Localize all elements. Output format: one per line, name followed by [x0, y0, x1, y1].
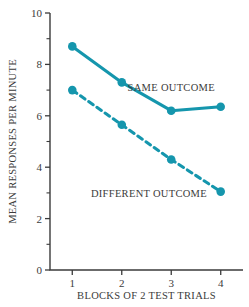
data-point-marker [118, 78, 127, 87]
data-point-marker [167, 155, 176, 164]
x-tick-label: 1 [70, 277, 76, 289]
y-axis-tick-labels: 0246810 [31, 7, 43, 276]
series-label: SAME OUTCOME [128, 82, 215, 93]
y-tick-label: 10 [31, 7, 43, 19]
data-point-marker [167, 106, 176, 115]
line-chart: 0246810 1234 SAME OUTCOMEDIFFERENT OUTCO… [0, 0, 249, 307]
y-tick-label: 2 [37, 213, 43, 225]
x-axis-tick-labels: 1234 [70, 277, 224, 289]
data-point-marker [68, 42, 77, 51]
y-tick-label: 0 [37, 264, 43, 276]
x-tick-label: 2 [119, 277, 125, 289]
y-axis-ticks [45, 13, 50, 270]
x-tick-label: 4 [218, 277, 224, 289]
series-line [72, 90, 220, 192]
y-tick-label: 6 [37, 110, 43, 122]
x-axis-title: BLOCKS OF 2 TEST TRIALS [77, 290, 216, 301]
data-series [68, 86, 225, 196]
data-point-marker [68, 86, 77, 95]
y-axis-title: MEAN RESPONSES PER MINUTE [7, 59, 18, 224]
y-tick-label: 8 [37, 58, 43, 70]
data-point-marker [216, 187, 225, 196]
x-axis-ticks [72, 270, 220, 275]
y-tick-label: 4 [37, 161, 43, 173]
x-tick-label: 3 [168, 277, 174, 289]
chart-container: 0246810 1234 SAME OUTCOMEDIFFERENT OUTCO… [0, 0, 249, 307]
data-point-marker [216, 103, 225, 112]
data-point-marker [118, 121, 127, 130]
series-line [72, 46, 220, 110]
data-series-layer [68, 42, 225, 196]
series-label: DIFFERENT OUTCOME [91, 188, 207, 199]
